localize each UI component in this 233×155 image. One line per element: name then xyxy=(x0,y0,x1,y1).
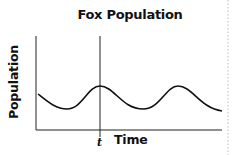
plot-area xyxy=(0,0,233,155)
population-curve xyxy=(38,86,222,111)
fox-population-chart: Fox Population Population Time t xyxy=(0,0,233,155)
